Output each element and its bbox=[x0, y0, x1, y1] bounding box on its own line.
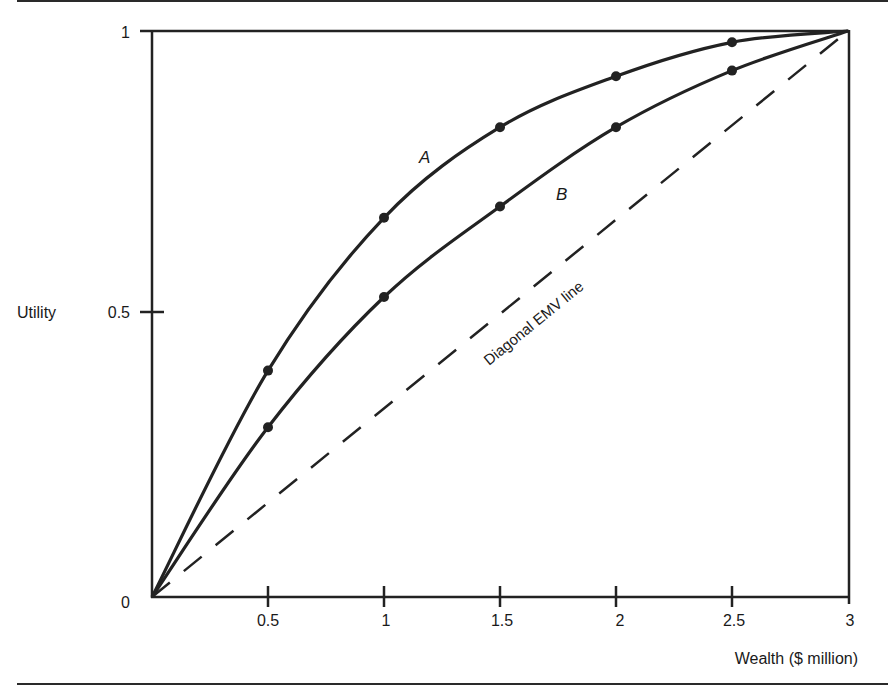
diagonal-emv-label: Diagonal EMV line bbox=[480, 277, 586, 368]
y-tick-label-1: 1 bbox=[121, 24, 130, 41]
data-point-marker bbox=[263, 366, 273, 376]
data-point-marker bbox=[611, 71, 621, 81]
plot-frame bbox=[140, 30, 849, 604]
x-tick-label-2.5: 2.5 bbox=[723, 612, 745, 629]
diagonal-emv-line bbox=[152, 31, 848, 597]
data-point-marker bbox=[379, 213, 389, 223]
curve-a-label: A bbox=[418, 148, 430, 167]
x-tick-label-1: 1 bbox=[382, 612, 391, 629]
y-tick-label-0: 0 bbox=[121, 594, 130, 611]
data-point-marker bbox=[495, 122, 505, 132]
y-axis-label: Utility bbox=[17, 304, 56, 321]
x-tick-label-2: 2 bbox=[616, 612, 625, 629]
data-point-marker bbox=[495, 201, 505, 211]
x-tick-label-1.5: 1.5 bbox=[491, 612, 513, 629]
data-point-marker bbox=[263, 422, 273, 432]
utility-chart: 1 0.5 0 0.5 1 1.5 2 2.5 3 Utility Wealth… bbox=[0, 0, 888, 688]
data-point-marker bbox=[727, 37, 737, 47]
curve-b-markers bbox=[263, 66, 737, 433]
data-point-marker bbox=[611, 122, 621, 132]
curve-b-label: B bbox=[556, 185, 567, 204]
y-tick-label-0.5: 0.5 bbox=[108, 304, 130, 321]
x-axis-label: Wealth ($ million) bbox=[735, 650, 858, 667]
data-point-marker bbox=[727, 66, 737, 76]
data-point-marker bbox=[379, 292, 389, 302]
x-tick-label-3: 3 bbox=[846, 612, 855, 629]
x-tick-label-0.5: 0.5 bbox=[257, 612, 279, 629]
